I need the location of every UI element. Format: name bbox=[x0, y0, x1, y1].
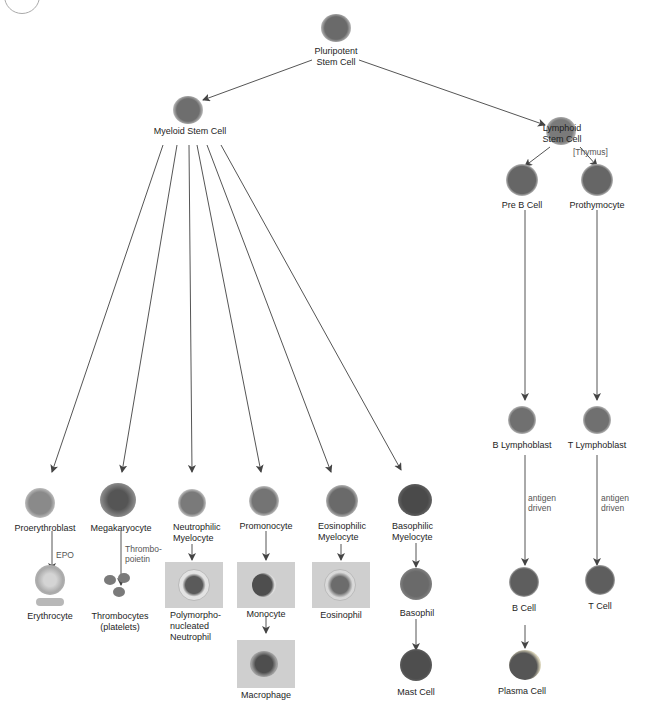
basophil-image bbox=[400, 568, 432, 600]
label-line: Stem Cell bbox=[314, 57, 357, 68]
t-cell-image bbox=[585, 565, 615, 595]
monocyte-label: Monocyte bbox=[246, 609, 285, 620]
t-cell-label: T Cell bbox=[588, 601, 611, 612]
label-line: Thrombocytes bbox=[91, 611, 148, 622]
neutrophilic-myelocyte-image bbox=[178, 489, 206, 517]
thrombocytes-label: Thrombocytes (platelets) bbox=[91, 611, 148, 633]
mast-cell-image bbox=[400, 649, 432, 681]
t-lymphoblast-label: T Lymphoblast bbox=[568, 440, 627, 451]
label-line: Polymorpho- bbox=[170, 610, 221, 621]
thrombopoietin-note: Thrombo- poietin bbox=[125, 544, 162, 564]
myeloid-stem-cell-label: Myeloid Stem Cell bbox=[154, 126, 227, 137]
thymus-note: [Thymus] bbox=[573, 147, 608, 157]
promonocyte-label: Promonocyte bbox=[239, 521, 292, 532]
label-line: Myelocyte bbox=[392, 532, 433, 543]
basophil-label: Basophil bbox=[400, 608, 435, 619]
note-line: driven bbox=[601, 503, 629, 513]
platelet-image bbox=[118, 573, 130, 583]
b-lymphoblast-image bbox=[508, 406, 536, 434]
neutrophil-label: Polymorpho- nucleated Neutrophil bbox=[170, 610, 221, 643]
label-line: (platelets) bbox=[91, 622, 148, 633]
label-line: Neutrophilic bbox=[173, 522, 221, 533]
note-line: poietin bbox=[125, 554, 162, 564]
platelet-image bbox=[104, 575, 116, 585]
antigen-driven-t-note: antigen driven bbox=[601, 493, 629, 513]
prothymocyte-image bbox=[581, 164, 613, 196]
note-line: antigen bbox=[528, 493, 556, 503]
eosinophil-image bbox=[324, 569, 356, 601]
basophilic-myelocyte-label: Basophilic Myelocyte bbox=[392, 521, 433, 543]
proerythroblast-label: Proerythroblast bbox=[14, 523, 75, 534]
epo-note: EPO bbox=[56, 550, 74, 560]
pluripotent-stem-cell-label: Pluripotent Stem Cell bbox=[314, 46, 357, 68]
note-line: antigen bbox=[601, 493, 629, 503]
megakaryocyte-image bbox=[100, 483, 136, 517]
macrophage-label: Macrophage bbox=[241, 690, 291, 701]
basophilic-myelocyte-image bbox=[398, 484, 432, 516]
lymphoid-stem-cell-label: Lymphoid Stem Cell bbox=[542, 123, 581, 145]
note-line: driven bbox=[528, 503, 556, 513]
label-line: Myelocyte bbox=[318, 532, 366, 543]
erythrocyte-side-view-image bbox=[36, 598, 64, 606]
b-cell-image bbox=[509, 567, 539, 597]
plasma-cell-label: Plasma Cell bbox=[498, 686, 546, 697]
label-line: Pluripotent bbox=[314, 46, 357, 57]
megakaryocyte-label: Megakaryocyte bbox=[90, 523, 151, 534]
hematopoiesis-diagram: Pluripotent Stem Cell Myeloid Stem Cell … bbox=[0, 0, 645, 711]
pre-b-cell-label: Pre B Cell bbox=[502, 200, 543, 211]
eosinophilic-myelocyte-image bbox=[326, 485, 358, 517]
pre-b-cell-image bbox=[506, 164, 538, 196]
label-line: nucleated bbox=[170, 621, 221, 632]
t-lymphoblast-image bbox=[583, 406, 611, 434]
note-line: Thrombo- bbox=[125, 544, 162, 554]
myeloid-stem-cell-image bbox=[173, 96, 203, 124]
antigen-driven-b-note: antigen driven bbox=[528, 493, 556, 513]
label-line: Basophilic bbox=[392, 521, 433, 532]
platelet-image bbox=[113, 587, 125, 597]
erythrocyte-image bbox=[35, 565, 65, 595]
label-line: Lymphoid bbox=[542, 123, 581, 134]
erythrocyte-label: Erythrocyte bbox=[27, 611, 73, 622]
prothymocyte-label: Prothymocyte bbox=[569, 200, 624, 211]
label-line: Eosinophilic bbox=[318, 521, 366, 532]
eosinophil-label: Eosinophil bbox=[320, 610, 362, 621]
neutrophil-image bbox=[178, 569, 210, 601]
label-line: Stem Cell bbox=[542, 134, 581, 145]
label-line: Neutrophil bbox=[170, 632, 221, 643]
neutrophilic-myelocyte-label: Neutrophilic Myelocyte bbox=[173, 522, 221, 544]
mast-cell-label: Mast Cell bbox=[397, 687, 435, 698]
b-lymphoblast-label: B Lymphoblast bbox=[492, 440, 551, 451]
proerythroblast-image bbox=[25, 488, 55, 518]
label-line: Myelocyte bbox=[173, 533, 221, 544]
promonocyte-image bbox=[249, 486, 279, 516]
monocyte-image bbox=[252, 573, 276, 597]
pluripotent-stem-cell-image bbox=[321, 14, 351, 42]
macrophage-image bbox=[250, 651, 278, 677]
b-cell-label: B Cell bbox=[512, 603, 536, 614]
plasma-cell-image bbox=[509, 650, 541, 680]
eosinophilic-myelocyte-label: Eosinophilic Myelocyte bbox=[318, 521, 366, 543]
